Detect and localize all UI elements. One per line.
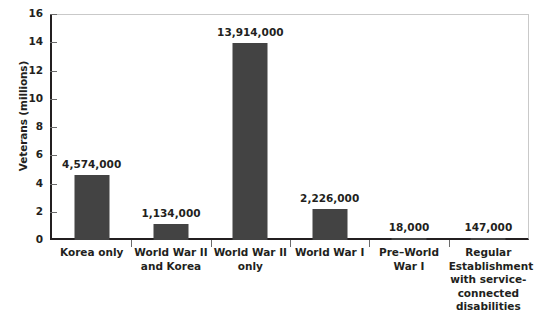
y-tick-label: 2: [0, 205, 43, 217]
bar-group: 1,134,000: [131, 14, 210, 240]
bar-value-label: 2,226,000: [300, 192, 359, 204]
x-axis-label-line: Regular: [449, 246, 528, 260]
x-axis-label-line: only: [211, 260, 290, 274]
bar: [74, 175, 109, 240]
x-axis-label-line: Pre–World War I: [369, 246, 448, 273]
x-axis-label: Pre–World War I: [369, 246, 448, 273]
x-axis-label: Korea only: [52, 246, 131, 260]
bar: [312, 209, 347, 240]
bar-value-label: 1,134,000: [141, 207, 200, 219]
bar-group: 147,000: [449, 14, 528, 240]
x-axis-labels: Korea onlyWorld War IIand KoreaWorld War…: [52, 246, 528, 316]
x-axis-label-line: disabilities: [449, 300, 528, 314]
y-tick-label: 12: [0, 64, 43, 76]
x-axis-label: RegularEstablishmentwith service-connect…: [449, 246, 528, 314]
bar: [471, 238, 506, 240]
bar-value-label: 13,914,000: [217, 26, 283, 38]
bar-group: 4,574,000: [52, 14, 131, 240]
bar: [153, 224, 188, 240]
x-axis-label-line: World War II: [131, 246, 210, 260]
x-axis-label: World War IIand Korea: [131, 246, 210, 273]
x-axis-label: World War I: [290, 246, 369, 260]
bar-value-label: 147,000: [464, 221, 512, 233]
x-axis-label-line: connected: [449, 287, 528, 301]
bar: [391, 238, 426, 240]
x-axis-label-line: World War I: [290, 246, 369, 260]
x-axis-label-line: World War II: [211, 246, 290, 260]
y-tick-label: 10: [0, 92, 43, 104]
x-axis-label-line: and Korea: [131, 260, 210, 274]
x-axis-label-line: with service-: [449, 273, 528, 287]
bar-value-label: 4,574,000: [62, 158, 121, 170]
x-axis-label-line: Establishment: [449, 260, 528, 274]
bar-group: 18,000: [369, 14, 448, 240]
y-tick-label: 14: [0, 35, 43, 47]
y-tick-label: 4: [0, 177, 43, 189]
y-tick-label: 6: [0, 148, 43, 160]
x-axis-label: World War IIonly: [211, 246, 290, 273]
bar-chart: Veterans (millions) 0246810121416 4,574,…: [0, 0, 545, 317]
y-tick-label: 0: [0, 233, 43, 245]
x-axis-label-line: Korea only: [52, 246, 131, 260]
y-tick-label: 16: [0, 7, 43, 19]
bar-group: 13,914,000: [211, 14, 290, 240]
y-tick-label: 8: [0, 120, 43, 132]
bar-value-label: 18,000: [389, 221, 430, 233]
bars-layer: 4,574,0001,134,00013,914,0002,226,00018,…: [52, 14, 528, 240]
bar: [233, 43, 268, 240]
bar-group: 2,226,000: [290, 14, 369, 240]
